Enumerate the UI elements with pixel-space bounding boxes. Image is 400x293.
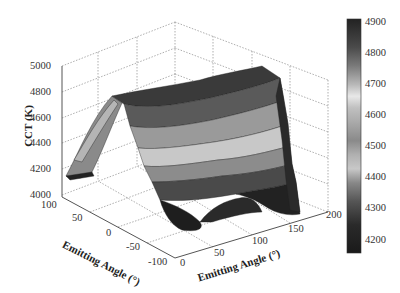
- x-tick: 200: [326, 210, 342, 221]
- colorbar-tick: 4900: [365, 17, 386, 28]
- colorbar-tick: 4700: [365, 79, 386, 90]
- colorbar: [347, 19, 361, 253]
- colorbar-tick: 4800: [365, 48, 386, 59]
- colorbar-tick: 4300: [365, 203, 386, 214]
- x-tick: 0: [180, 258, 185, 269]
- x-tick: 150: [288, 224, 304, 235]
- y-tick: -50: [126, 242, 140, 253]
- colorbar-tick: 4200: [365, 235, 386, 246]
- surface-plot: [0, 0, 400, 293]
- z-axis-title: CCT (K): [22, 96, 34, 156]
- x-tick: 100: [252, 236, 268, 247]
- y-tick: 0: [106, 228, 111, 239]
- x-tick: 50: [214, 248, 225, 259]
- y-tick: 100: [41, 200, 57, 211]
- y-tick: -100: [148, 257, 167, 268]
- y-tick: 50: [72, 213, 83, 224]
- colorbar-tick: 4400: [365, 172, 386, 183]
- cct-surface: [66, 66, 300, 231]
- colorbar-tick: 4500: [365, 141, 386, 152]
- z-tick: 5000: [30, 61, 51, 72]
- z-tick: 4200: [30, 164, 51, 175]
- colorbar-tick: 4600: [365, 110, 386, 121]
